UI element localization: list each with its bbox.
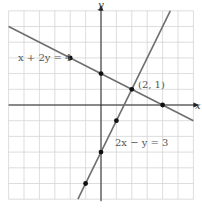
data-point	[99, 71, 104, 76]
data-point	[83, 181, 88, 186]
intersection-point	[129, 87, 134, 92]
intersection-label: (2, 1)	[138, 79, 165, 90]
line1-label: x + 2y = 4	[18, 52, 72, 63]
data-point	[114, 118, 119, 123]
x-axis-label: x	[195, 100, 201, 111]
data-point	[160, 103, 165, 108]
coordinate-graph: y x x + 2y = 4 2x − y = 3 (2, 1)	[0, 0, 202, 209]
line2-label: 2x − y = 3	[115, 137, 169, 148]
y-axis-label: y	[97, 0, 104, 10]
axes	[9, 5, 200, 201]
data-point	[99, 150, 104, 155]
